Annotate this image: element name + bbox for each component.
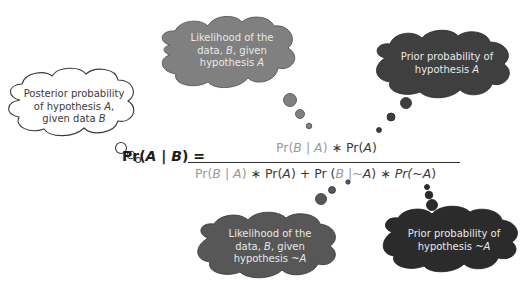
den-t1-a: A bbox=[233, 166, 242, 181]
posterior-var-b: B bbox=[99, 113, 106, 124]
posterior-var-a: A bbox=[104, 101, 111, 112]
likelihood-a-var-a: A bbox=[257, 57, 264, 68]
num-likelihood-pr: Pr( bbox=[276, 140, 293, 155]
prior-a-var-a: A bbox=[472, 64, 479, 75]
likelihood-a-cloud-label: Likelihood of the data, B, given hypothe… bbox=[180, 32, 284, 70]
likelihood-not-a-var-b: B bbox=[264, 241, 271, 252]
num-likelihood-bar: | bbox=[302, 140, 314, 155]
formula-numerator: Pr(B | A) ∗ Pr(A) bbox=[276, 140, 377, 155]
num-likelihood-b: B bbox=[293, 140, 302, 155]
den-times1: ∗ bbox=[247, 166, 265, 181]
posterior-line3: given data bbox=[42, 113, 98, 124]
likelihood-not-a-line2: data, bbox=[235, 241, 264, 252]
num-times: ∗ bbox=[328, 140, 346, 155]
prior-a-thought-cloud bbox=[376, 30, 509, 132]
likelihood-a-line2: data, bbox=[197, 45, 226, 56]
den-t1-bar: | bbox=[221, 166, 233, 181]
prior-not-a-line2: hypothesis bbox=[418, 241, 476, 252]
lhs-bar: | bbox=[156, 148, 171, 164]
fraction-line bbox=[188, 162, 460, 163]
likelihood-not-a-line3: hypothesis bbox=[234, 253, 292, 264]
lhs-var-a: A bbox=[146, 148, 157, 164]
posterior-comma: , bbox=[111, 101, 114, 112]
num-prior-a: A bbox=[363, 140, 372, 155]
formula-denominator: Pr(B | A) ∗ Pr(A) + Pr (B |~A) ∗ Pr(~A) bbox=[195, 166, 436, 181]
likelihood-not-a-cloud-label: Likelihood of the data, B, given hypothe… bbox=[214, 228, 326, 266]
den-t4-a: A bbox=[423, 166, 432, 181]
prior-not-a-var: ~A bbox=[475, 241, 490, 252]
lhs-var-b: B bbox=[171, 148, 182, 164]
likelihood-a-var-b: B bbox=[226, 45, 233, 56]
likelihood-a-given: , given bbox=[233, 45, 267, 56]
den-times2: ∗ bbox=[376, 166, 394, 181]
prior-a-cloud-label: Prior probability of hypothesis A bbox=[392, 51, 502, 76]
den-t2-a: A bbox=[282, 166, 291, 181]
num-prior-pr: Pr( bbox=[346, 140, 363, 155]
likelihood-not-a-line1: Likelihood of the bbox=[229, 228, 312, 239]
den-t3-bar: |~ bbox=[344, 166, 363, 181]
den-t3-pr: Pr ( bbox=[314, 166, 335, 181]
den-plus: + bbox=[296, 166, 314, 181]
posterior-line1: Posterior probability bbox=[24, 88, 125, 99]
prior-a-line2: hypothesis bbox=[415, 64, 473, 75]
den-t3-b: B bbox=[336, 166, 345, 181]
num-prior-close: ) bbox=[372, 140, 377, 155]
den-t2-pr: Pr( bbox=[265, 166, 282, 181]
prior-not-a-line1: Prior probability of bbox=[408, 228, 500, 239]
den-t1-pr: Pr( bbox=[195, 166, 212, 181]
den-t1-b: B bbox=[212, 166, 221, 181]
prior-a-line1: Prior probability of bbox=[401, 51, 493, 62]
den-t4-pr: Pr(~ bbox=[395, 166, 423, 181]
likelihood-not-a-given: , given bbox=[271, 241, 305, 252]
lhs-pr: Pr( bbox=[122, 148, 146, 164]
likelihood-a-line1: Likelihood of the bbox=[191, 32, 274, 43]
prior-not-a-cloud-label: Prior probability of hypothesis ~A bbox=[398, 228, 510, 253]
posterior-cloud-label: Posterior probability of hypothesis A, g… bbox=[22, 88, 126, 126]
likelihood-a-line3: hypothesis bbox=[200, 57, 258, 68]
num-likelihood-a: A bbox=[314, 140, 323, 155]
den-t4-close: ) bbox=[431, 166, 436, 181]
likelihood-not-a-var: ~A bbox=[291, 253, 306, 264]
posterior-line2: of hypothesis bbox=[34, 101, 104, 112]
